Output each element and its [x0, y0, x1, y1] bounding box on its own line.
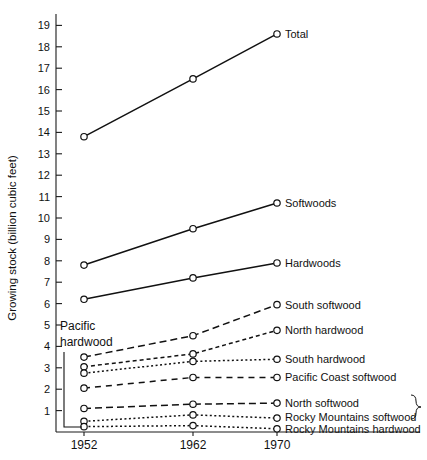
y-tick-label: 6 [44, 298, 50, 310]
series-label-softwoods: Softwoods [285, 197, 337, 209]
data-point-marker [274, 426, 280, 432]
y-tick-label: 18 [38, 41, 50, 53]
series-label-north-hardwood: North hardwood [285, 324, 363, 336]
x-axis-ticks: 195219621970 [71, 432, 291, 452]
data-point-marker [274, 374, 280, 380]
series-line [84, 263, 277, 299]
data-point-marker [190, 226, 196, 232]
data-point-marker [274, 260, 280, 266]
y-tick-label: 12 [38, 169, 50, 181]
series-label-north-softwood: North softwood [285, 397, 359, 409]
y-tick-label: 5 [44, 319, 50, 331]
y-tick-label: 16 [38, 84, 50, 96]
data-point-marker [274, 400, 280, 406]
data-point-marker [190, 358, 196, 364]
series-labels: TotalSoftwoodsHardwoodsSouth softwoodNor… [285, 28, 421, 435]
series-south-softwood [81, 301, 280, 360]
series-line [84, 203, 277, 265]
series-rocky-mountains-softwood [81, 412, 280, 425]
series-label-south-softwood: South softwood [285, 299, 361, 311]
data-point-marker [190, 374, 196, 380]
data-point-marker [81, 370, 87, 376]
series-softwoods [81, 200, 280, 268]
data-point-marker [81, 133, 87, 139]
y-tick-label: 3 [44, 362, 50, 374]
series-total [81, 31, 280, 140]
y-tick-label: 19 [38, 19, 50, 31]
y-axis-ticks: 12345678910111213141516171819 [38, 19, 62, 416]
data-point-marker [190, 275, 196, 281]
series-label-south-hardwood: South hardwood [285, 353, 365, 365]
growing-stock-line-chart: Growing stock (billion cubic feet) 12345… [0, 0, 427, 460]
pacific-hardwood-label-line1: Pacific [60, 319, 95, 333]
pacific-hardwood-label-line2: hardwood [60, 335, 113, 349]
data-point-marker [274, 301, 280, 307]
data-point-marker [190, 422, 196, 428]
y-tick-label: 1 [44, 405, 50, 417]
data-point-marker [81, 405, 87, 411]
y-tick-label: 14 [38, 126, 50, 138]
data-point-marker [190, 76, 196, 82]
series-label-pacific-coast-softwood: Pacific Coast softwood [285, 371, 396, 383]
series-line [84, 426, 277, 429]
y-tick-label: 9 [44, 233, 50, 245]
data-point-marker [274, 31, 280, 37]
x-tick-label: 1962 [180, 438, 207, 452]
data-point-marker [274, 356, 280, 362]
y-tick-label: 15 [38, 105, 50, 117]
data-point-marker [81, 262, 87, 268]
data-point-marker [190, 401, 196, 407]
series-label-rocky-mountains-hardwood: Rocky Mountains hardwood [285, 423, 421, 435]
series-pacific-coast-softwood [81, 374, 280, 391]
y-tick-label: 8 [44, 255, 50, 267]
series-label-hardwoods: Hardwoods [285, 257, 341, 269]
y-tick-label: 4 [44, 340, 50, 352]
y-axis-title: Growing stock (billion cubic feet) [6, 155, 18, 321]
y-tick-label: 11 [39, 191, 50, 203]
data-point-marker [274, 200, 280, 206]
data-point-marker [274, 327, 280, 333]
data-point-marker [81, 385, 87, 391]
series-line [84, 377, 277, 388]
series-line [84, 34, 277, 137]
series-hardwoods [81, 260, 280, 303]
data-point-marker [81, 364, 87, 370]
series-north-softwood [81, 400, 280, 412]
data-point-marker [81, 296, 87, 302]
data-point-marker [190, 333, 196, 339]
series-layer [81, 31, 280, 432]
y-tick-label: 2 [44, 383, 50, 395]
axes [56, 14, 420, 432]
data-point-marker [190, 412, 196, 418]
series-label-total: Total [285, 28, 308, 40]
x-tick-label: 1952 [71, 438, 98, 452]
data-point-marker [274, 415, 280, 421]
series-line [84, 305, 277, 357]
y-tick-label: 13 [38, 148, 50, 160]
series-line [84, 330, 277, 366]
series-line [84, 403, 277, 408]
series-line [84, 415, 277, 421]
y-tick-label: 10 [38, 212, 50, 224]
data-point-marker [81, 354, 87, 360]
x-tick-label: 1970 [264, 438, 291, 452]
series-south-hardwood [81, 356, 280, 376]
series-rocky-mountains-hardwood [81, 422, 280, 432]
chart-root: Growing stock (billion cubic feet) 12345… [0, 0, 427, 460]
y-tick-label: 7 [44, 276, 50, 288]
data-point-marker [190, 351, 196, 357]
series-label-rocky-mountains-softwood: Rocky Mountains softwood [285, 411, 416, 423]
series-line [84, 359, 277, 373]
pacific-hardwood-leader-line [64, 352, 82, 427]
y-tick-label: 17 [38, 62, 50, 74]
